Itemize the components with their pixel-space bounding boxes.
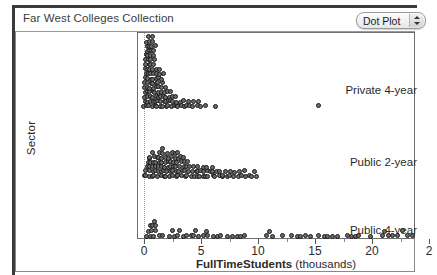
x-tick-label-15: 15: [295, 244, 335, 258]
chevron-down-icon: [414, 22, 420, 25]
y-category-label-private-4-year: Private 4-year: [297, 84, 417, 96]
x-minor-tick: [173, 239, 174, 242]
x-minor-tick: [401, 239, 402, 242]
collection-title: Far West Colleges Collection: [23, 12, 174, 24]
x-minor-tick: [230, 239, 231, 242]
x-minor-tick: [287, 239, 288, 242]
y-axis-title: Sector: [25, 103, 37, 173]
plot-area[interactable]: [137, 32, 415, 239]
x-tick-label-0: 0: [124, 244, 164, 258]
x-axis-title-units: (thousands): [292, 258, 356, 270]
y-axis-line: [137, 32, 138, 239]
x-tick-label-20: 20: [352, 244, 392, 258]
plot-type-label: Dot Plot: [363, 15, 400, 27]
plot-type-stepper-icon[interactable]: [409, 14, 424, 27]
x-tick-label-10: 10: [238, 244, 278, 258]
x-axis-title: FullTimeStudents (thousands): [137, 258, 415, 270]
plot-type-dropdown[interactable]: Dot Plot: [356, 12, 426, 29]
x-tick-label-25: 2: [409, 244, 437, 258]
x-axis-title-variable: FullTimeStudents: [196, 258, 292, 270]
window-title-bar: Far West Colleges Collection Dot Plot: [15, 8, 415, 32]
y-category-label-public-2-year: Public 2-year: [297, 156, 417, 168]
zero-reference-line: [144, 33, 145, 238]
y-category-label-public-4-year: Public 4-year: [297, 224, 417, 236]
chevron-up-icon: [414, 16, 420, 19]
x-minor-tick: [344, 239, 345, 242]
x-tick-label-5: 5: [181, 244, 221, 258]
